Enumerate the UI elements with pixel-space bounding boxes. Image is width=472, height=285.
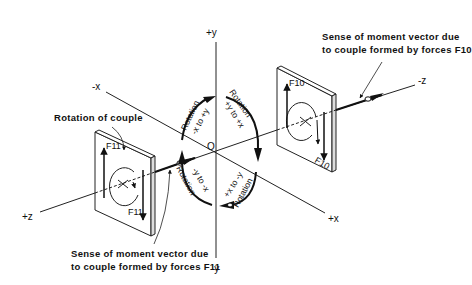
force-label-f10-top: F10: [289, 78, 305, 88]
leader-moment-f10: [360, 62, 382, 98]
axis-label-plus-z: +z: [22, 211, 33, 222]
axis-label-minus-z: -z: [418, 75, 426, 86]
annotation-moment-f10-line2: to couple formed by forces F10: [322, 44, 472, 55]
force-label-f11-top: F11: [106, 141, 121, 151]
plate-f10: [277, 66, 336, 172]
moment-vector-f10: [336, 93, 384, 110]
annotation-rotation-of-couple: Rotation of couple: [54, 112, 143, 123]
annotation-moment-f11-line1: Sense of moment vector due: [71, 248, 209, 259]
axis-label-plus-y: +y: [206, 27, 217, 38]
origin-label: O: [207, 141, 215, 152]
plate-f11: [95, 130, 155, 236]
axis-label-minus-x: -x: [92, 81, 100, 92]
force-label-f11-bottom: F11: [128, 207, 143, 217]
annotation-moment-f10-line1: Sense of moment vector due: [322, 31, 460, 42]
axis-label-plus-x: +x: [328, 213, 339, 224]
annotation-moment-f11-line2: to couple formed by forces F11: [71, 261, 221, 272]
couple-moment-diagram: F11 F11 F10 F10: [0, 0, 472, 285]
leader-moment-f11: [154, 170, 170, 244]
z-axis-back: [40, 193, 95, 212]
